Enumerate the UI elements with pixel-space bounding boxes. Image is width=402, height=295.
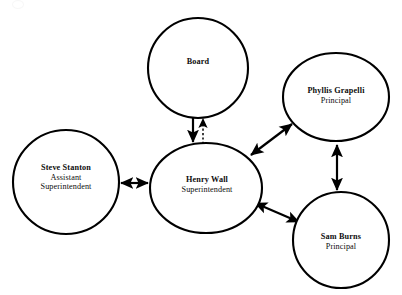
organizational-diagram: Board Steve Stanton Assistant Superinten…: [0, 0, 402, 295]
node-sam-burns[interactable]: [293, 192, 389, 288]
edge-henry-wall-sam-burns: [255, 203, 299, 222]
node-phyllis-grapelli[interactable]: [283, 53, 389, 141]
diagram-canvas: [0, 0, 402, 295]
node-henry-wall[interactable]: [150, 143, 262, 233]
node-steve-stanton[interactable]: [13, 130, 119, 234]
node-board[interactable]: [148, 18, 248, 118]
edge-henry-wall-phyllis-grapelli: [251, 124, 292, 155]
